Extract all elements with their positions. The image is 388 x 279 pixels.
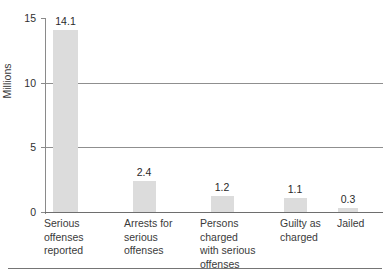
bar-value-label: 14.1 bbox=[46, 15, 86, 27]
bar-value-label: 2.4 bbox=[124, 166, 164, 178]
bottom-divider bbox=[8, 268, 382, 269]
bar-value-label: 0.3 bbox=[328, 193, 368, 205]
x-category-label-line: offenses bbox=[44, 231, 84, 245]
x-category-label-line: Arrests for bbox=[124, 217, 172, 231]
y-tick-label-0: 0 bbox=[12, 206, 36, 218]
x-category-label-line: Guilty as bbox=[280, 217, 321, 231]
bar-value-label: 1.1 bbox=[275, 183, 315, 195]
x-axis-line bbox=[45, 212, 383, 213]
bar bbox=[284, 198, 307, 212]
x-category-label-line: reported bbox=[44, 244, 84, 258]
x-category-label-line: Serious bbox=[44, 217, 84, 231]
x-category-label-line: Persons bbox=[200, 217, 255, 231]
y-tick-label-10: 10 bbox=[12, 77, 36, 89]
bar bbox=[53, 30, 78, 212]
x-category-label-line: charged bbox=[200, 231, 255, 245]
bar-value-label: 1.2 bbox=[202, 181, 242, 193]
y-tick-label-5: 5 bbox=[12, 141, 36, 153]
x-category-label: Personschargedwith seriousoffenses bbox=[200, 217, 255, 271]
x-category-label-line: with serious bbox=[200, 244, 255, 258]
x-category-label-line: Jailed bbox=[337, 217, 364, 231]
x-category-label: Jailed bbox=[337, 217, 364, 231]
bar bbox=[338, 208, 358, 212]
bar bbox=[211, 196, 234, 212]
x-category-label: Seriousoffensesreported bbox=[44, 217, 84, 258]
bar-chart-figure: Millions 15 10 5 0 14.12.41.21.10.3 Seri… bbox=[0, 0, 388, 279]
bar bbox=[133, 181, 156, 212]
x-category-label-line: charged bbox=[280, 231, 321, 245]
x-category-label-line: offenses bbox=[124, 244, 172, 258]
y-tick-label-15: 15 bbox=[12, 12, 36, 24]
x-category-label: Guilty ascharged bbox=[280, 217, 321, 244]
x-category-label: Arrests forseriousoffenses bbox=[124, 217, 172, 258]
x-category-label-line: serious bbox=[124, 231, 172, 245]
